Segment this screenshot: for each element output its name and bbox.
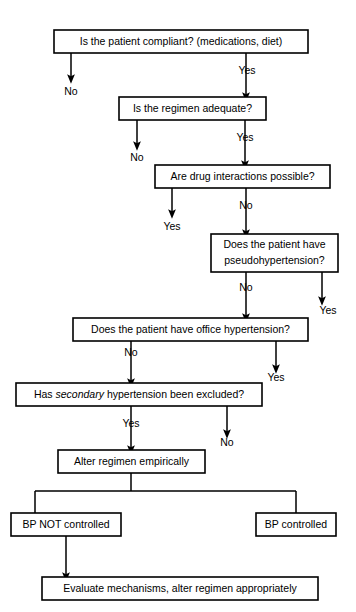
edge-label-regimen-no: No xyxy=(130,151,144,163)
flow-node-evaluate-mechanisms: Evaluate mechanisms, alter regimen appro… xyxy=(42,577,318,600)
edge-label-drug-interactions-yes: Yes xyxy=(163,220,180,232)
node-label-bp-controlled: BP controlled xyxy=(265,518,327,530)
flow-node-secondary-hypertension: Has secondary hypertension been excluded… xyxy=(16,383,262,406)
flow-node-alter-regimen: Alter regimen empirically xyxy=(58,450,205,473)
edge-label-pseudo-yes: Yes xyxy=(319,304,336,316)
edge-label-regimen-yes: Yes xyxy=(236,131,253,143)
edge-label-office-yes: Yes xyxy=(267,371,284,383)
node-label-drug-interactions: Are drug interactions possible? xyxy=(170,170,314,182)
edge-label-pseudo-no: No xyxy=(239,281,253,293)
node-label-compliant: Is the patient compliant? (medications, … xyxy=(80,35,283,47)
edge-label-drug-interactions-no: No xyxy=(239,199,253,211)
edge-label-secondary-no: No xyxy=(220,436,234,448)
flow-edges-layer xyxy=(35,53,322,577)
node-label-office-hypertension: Does the patient have office hypertensio… xyxy=(91,323,290,335)
flowchart-svg: Is the patient compliant? (medications, … xyxy=(0,0,356,612)
flow-node-pseudohypertension: Does the patient havepseudohypertension? xyxy=(211,234,338,272)
flowchart-container: Is the patient compliant? (medications, … xyxy=(0,0,356,612)
node-label-pseudohypertension-line2: pseudohypertension? xyxy=(224,254,325,266)
flow-node-compliant: Is the patient compliant? (medications, … xyxy=(54,30,308,53)
flow-node-regimen-adequate: Is the regimen adequate? xyxy=(119,97,266,120)
edge-label-compliant-no: No xyxy=(64,85,78,97)
edge-label-secondary-yes: Yes xyxy=(122,417,139,429)
flow-nodes-layer: Is the patient compliant? (medications, … xyxy=(11,30,338,600)
edge-label-office-no: No xyxy=(124,346,138,358)
flow-node-drug-interactions: Are drug interactions possible? xyxy=(155,165,330,188)
flow-node-office-hypertension: Does the patient have office hypertensio… xyxy=(73,318,308,341)
node-label-regimen-adequate: Is the regimen adequate? xyxy=(133,102,252,114)
flow-edge-alter-split xyxy=(35,473,296,513)
node-label-bp-not-controlled: BP NOT controlled xyxy=(22,518,109,530)
edge-label-compliant-yes: Yes xyxy=(238,64,255,76)
node-label-alter-regimen: Alter regimen empirically xyxy=(74,455,190,467)
flow-node-bp-not-controlled: BP NOT controlled xyxy=(11,513,121,536)
node-label-pseudohypertension-line1: Does the patient have xyxy=(223,238,325,250)
flow-node-bp-controlled: BP controlled xyxy=(256,513,336,536)
node-label-secondary-hypertension: Has secondary hypertension been excluded… xyxy=(34,388,244,400)
node-label-evaluate-mechanisms: Evaluate mechanisms, alter regimen appro… xyxy=(63,582,297,594)
